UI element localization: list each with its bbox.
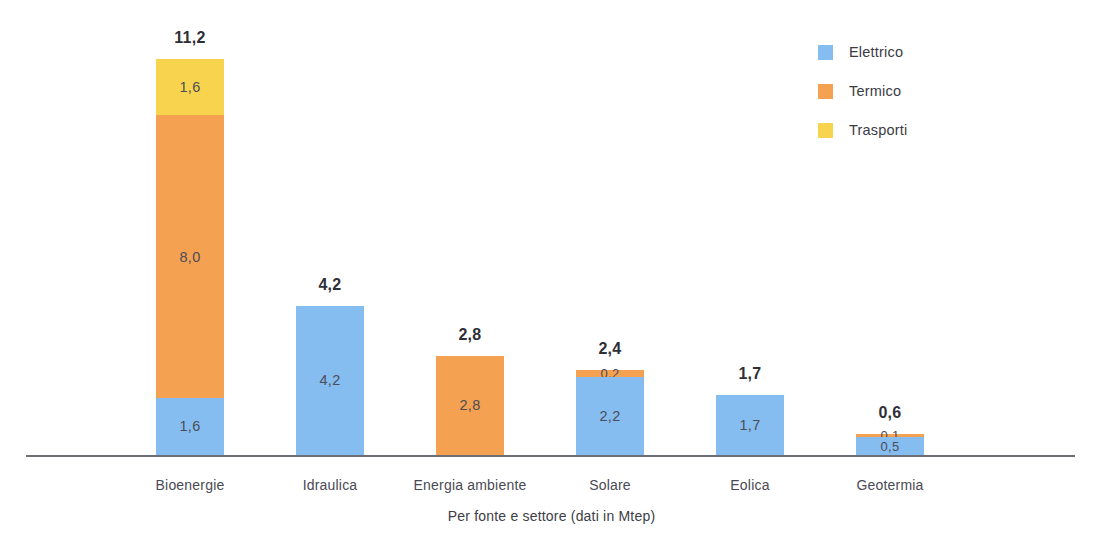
category-label: Idraulica bbox=[303, 477, 358, 493]
bar-segment-label: 1,7 bbox=[739, 418, 760, 433]
bar-energia-ambiente[interactable]: 2,82,8Energia ambiente bbox=[436, 356, 504, 455]
legend-item-label: Termico bbox=[849, 83, 901, 99]
bar-segment-elettrico[interactable]: 4,2 bbox=[296, 306, 364, 455]
bar-segment-label: 4,2 bbox=[319, 373, 340, 388]
bar-total-label: 2,4 bbox=[598, 340, 621, 358]
legend-swatch-icon bbox=[818, 84, 833, 99]
bar-segment-elettrico[interactable]: 1,7 bbox=[716, 395, 784, 455]
bar-segment-label: 8,0 bbox=[179, 250, 200, 265]
bar-segment-termico[interactable]: 2,8 bbox=[436, 356, 504, 455]
legend-item-termico[interactable]: Termico bbox=[818, 83, 907, 99]
bar-total-label: 1,7 bbox=[738, 365, 761, 383]
bar-bioenergie[interactable]: 11,21,68,01,6Bioenergie bbox=[156, 59, 224, 455]
x-axis-baseline bbox=[26, 455, 1075, 457]
category-label: Energia ambiente bbox=[414, 477, 527, 493]
category-label: Solare bbox=[589, 477, 631, 493]
plot-area: 11,21,68,01,6Bioenergie4,24,2Idraulica2,… bbox=[0, 0, 1103, 555]
stacked-bar-chart: 11,21,68,01,6Bioenergie4,24,2Idraulica2,… bbox=[0, 0, 1103, 555]
bar-solare[interactable]: 2,40,22,2Solare bbox=[576, 370, 644, 455]
bar-segment-label: 1,6 bbox=[179, 419, 200, 434]
legend-item-trasporti[interactable]: Trasporti bbox=[818, 122, 907, 138]
chart-legend: ElettricoTermicoTrasporti bbox=[818, 44, 907, 138]
legend-item-elettrico[interactable]: Elettrico bbox=[818, 44, 907, 60]
bar-segment-elettrico[interactable]: 0,5 bbox=[856, 437, 924, 455]
legend-swatch-icon bbox=[818, 45, 833, 60]
bar-total-label: 4,2 bbox=[318, 276, 341, 294]
legend-swatch-icon bbox=[818, 123, 833, 138]
bar-segment-label: 1,6 bbox=[179, 80, 200, 95]
category-label: Geotermia bbox=[856, 477, 923, 493]
bar-segment-label: 0,5 bbox=[881, 440, 900, 453]
chart-caption: Per fonte e settore (dati in Mtep) bbox=[0, 508, 1103, 524]
legend-item-label: Elettrico bbox=[849, 44, 903, 60]
bar-segment-termico[interactable]: 8,0 bbox=[156, 115, 224, 398]
bar-segment-elettrico[interactable]: 2,2 bbox=[576, 377, 644, 455]
bar-geotermia[interactable]: 0,60,10,5Geotermia bbox=[856, 434, 924, 455]
bar-eolica[interactable]: 1,71,7Eolica bbox=[716, 395, 784, 455]
legend-item-label: Trasporti bbox=[849, 122, 907, 138]
bar-total-label: 11,2 bbox=[174, 29, 205, 47]
category-label: Eolica bbox=[730, 477, 769, 493]
bar-segment-termico[interactable]: 0,2 bbox=[576, 370, 644, 377]
bar-segment-label: 2,8 bbox=[459, 398, 480, 413]
bar-segment-trasporti[interactable]: 1,6 bbox=[156, 59, 224, 116]
bar-segment-elettrico[interactable]: 1,6 bbox=[156, 398, 224, 455]
bar-total-label: 0,6 bbox=[878, 404, 901, 422]
bar-idraulica[interactable]: 4,24,2Idraulica bbox=[296, 306, 364, 455]
category-label: Bioenergie bbox=[156, 477, 225, 493]
bar-total-label: 2,8 bbox=[458, 326, 481, 344]
bar-segment-label: 2,2 bbox=[599, 409, 620, 424]
